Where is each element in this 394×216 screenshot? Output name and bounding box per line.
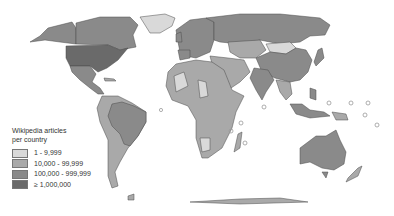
island-marker bbox=[243, 141, 247, 145]
legend-item: ≥ 1,000,000 bbox=[12, 180, 91, 191]
legend-item: 100,000 - 999,999 bbox=[12, 169, 91, 180]
legend-title: Wikipedia articles per country bbox=[12, 127, 91, 144]
region-japan bbox=[314, 48, 324, 66]
region-indonesia bbox=[290, 104, 330, 118]
legend-item: 1 - 9,999 bbox=[12, 148, 91, 159]
region-australia bbox=[300, 130, 346, 170]
map-legend: Wikipedia articles per country 1 - 9,999… bbox=[12, 127, 91, 190]
region-tasmania bbox=[322, 172, 328, 178]
region-kazakhstan bbox=[228, 40, 266, 58]
region-madagascar bbox=[234, 132, 242, 152]
region-philippines bbox=[310, 88, 316, 100]
legend-item: 10,000 - 99,999 bbox=[12, 159, 91, 170]
island-marker bbox=[363, 113, 367, 117]
region-uk bbox=[176, 32, 182, 42]
region-greenland bbox=[140, 14, 175, 33]
legend-label: 10,000 - 99,999 bbox=[34, 160, 83, 169]
region-caribbean bbox=[104, 78, 116, 81]
legend-title-line2: per country bbox=[12, 136, 91, 145]
legend-label: ≥ 1,000,000 bbox=[34, 181, 71, 190]
island-marker bbox=[366, 101, 370, 105]
region-antarctica bbox=[190, 198, 308, 204]
island-marker bbox=[349, 101, 353, 105]
legend-swatch bbox=[12, 170, 28, 179]
region-russia bbox=[206, 14, 330, 44]
region-tierra bbox=[128, 194, 134, 200]
island-marker bbox=[239, 121, 243, 125]
legend-label: 100,000 - 999,999 bbox=[34, 170, 91, 179]
island-marker bbox=[262, 105, 266, 109]
island-marker bbox=[327, 101, 331, 105]
region-new-zealand bbox=[346, 166, 362, 182]
region-iberia bbox=[178, 50, 190, 60]
legend-swatch bbox=[12, 149, 28, 158]
island-marker bbox=[375, 123, 379, 127]
legend-swatch bbox=[12, 180, 28, 189]
island-marker bbox=[159, 108, 162, 111]
legend-title-line1: Wikipedia articles bbox=[12, 127, 91, 136]
region-se-asia bbox=[276, 80, 292, 100]
legend-label: 1 - 9,999 bbox=[34, 149, 62, 158]
region-alaska bbox=[30, 22, 76, 44]
legend-swatch bbox=[12, 159, 28, 168]
region-namibia-light bbox=[200, 138, 210, 152]
region-png bbox=[332, 112, 348, 120]
